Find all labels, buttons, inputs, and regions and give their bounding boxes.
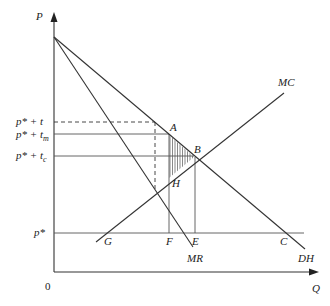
economics-diagram: P Q 0 p* + t p* + tm p* + tc p* [0,0,330,306]
price-labels: p* + t p* + tm p* + tc p* [15,115,49,238]
y-axis-arrow-icon [51,12,58,22]
curve-MC [96,93,284,242]
x-axis-arrow-icon [309,269,319,276]
x-axis-label: Q [312,282,320,294]
label-p-star-plus-tm: p* + tm [15,128,49,143]
origin-label: 0 [45,280,51,292]
point-label-H: H [171,177,181,189]
curve-label-DH: DH [297,252,315,264]
point-label-C: C [280,235,288,247]
curve-label-MC: MC [277,76,295,88]
label-p-star-plus-tc: p* + tc [15,149,47,164]
curves: MC MR DH [54,37,315,264]
point-label-E: E [191,235,199,247]
label-p-star-plus-t: p* + t [15,115,44,127]
point-label-B: B [194,143,201,155]
point-label-A: A [169,121,177,133]
point-label-F: F [165,235,173,247]
point-label-G: G [104,235,112,247]
point-labels: A B H G F E C [104,121,288,247]
y-axis-label: P [35,10,43,22]
label-p-star: p* [33,226,46,238]
curve-DH [54,37,305,249]
curve-label-MR: MR [186,252,203,264]
